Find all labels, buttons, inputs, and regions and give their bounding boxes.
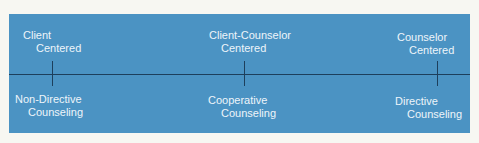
label-line: Centered [209,42,291,55]
label-line: Counseling [395,108,462,121]
label-line: Counseling [15,106,83,119]
label-line: Centered [397,44,454,57]
bottom-label-cooperative: Cooperative Counseling [208,94,276,120]
label-line: Counselor [397,31,454,44]
top-label-client-counselor-centered: Client-Counselor Centered [209,29,291,55]
label-line: Non-Directive [15,93,83,106]
top-label-counselor-centered: Counselor Centered [397,31,454,57]
tick-client-centered [52,61,53,86]
bottom-label-directive: Directive Counseling [395,95,462,121]
label-line: Client [23,29,81,42]
tick-counselor-centered [437,61,438,86]
tick-client-counselor-centered [244,61,245,86]
label-line: Cooperative [208,94,276,107]
counseling-continuum-diagram: Client Centered Non-Directive Counseling… [9,14,470,133]
continuum-axis-line [9,74,470,75]
bottom-label-non-directive: Non-Directive Counseling [15,93,83,119]
label-line: Directive [395,95,462,108]
label-line: Centered [23,42,81,55]
label-line: Counseling [208,107,276,120]
label-line: Client-Counselor [209,29,291,42]
top-label-client-centered: Client Centered [23,29,81,55]
